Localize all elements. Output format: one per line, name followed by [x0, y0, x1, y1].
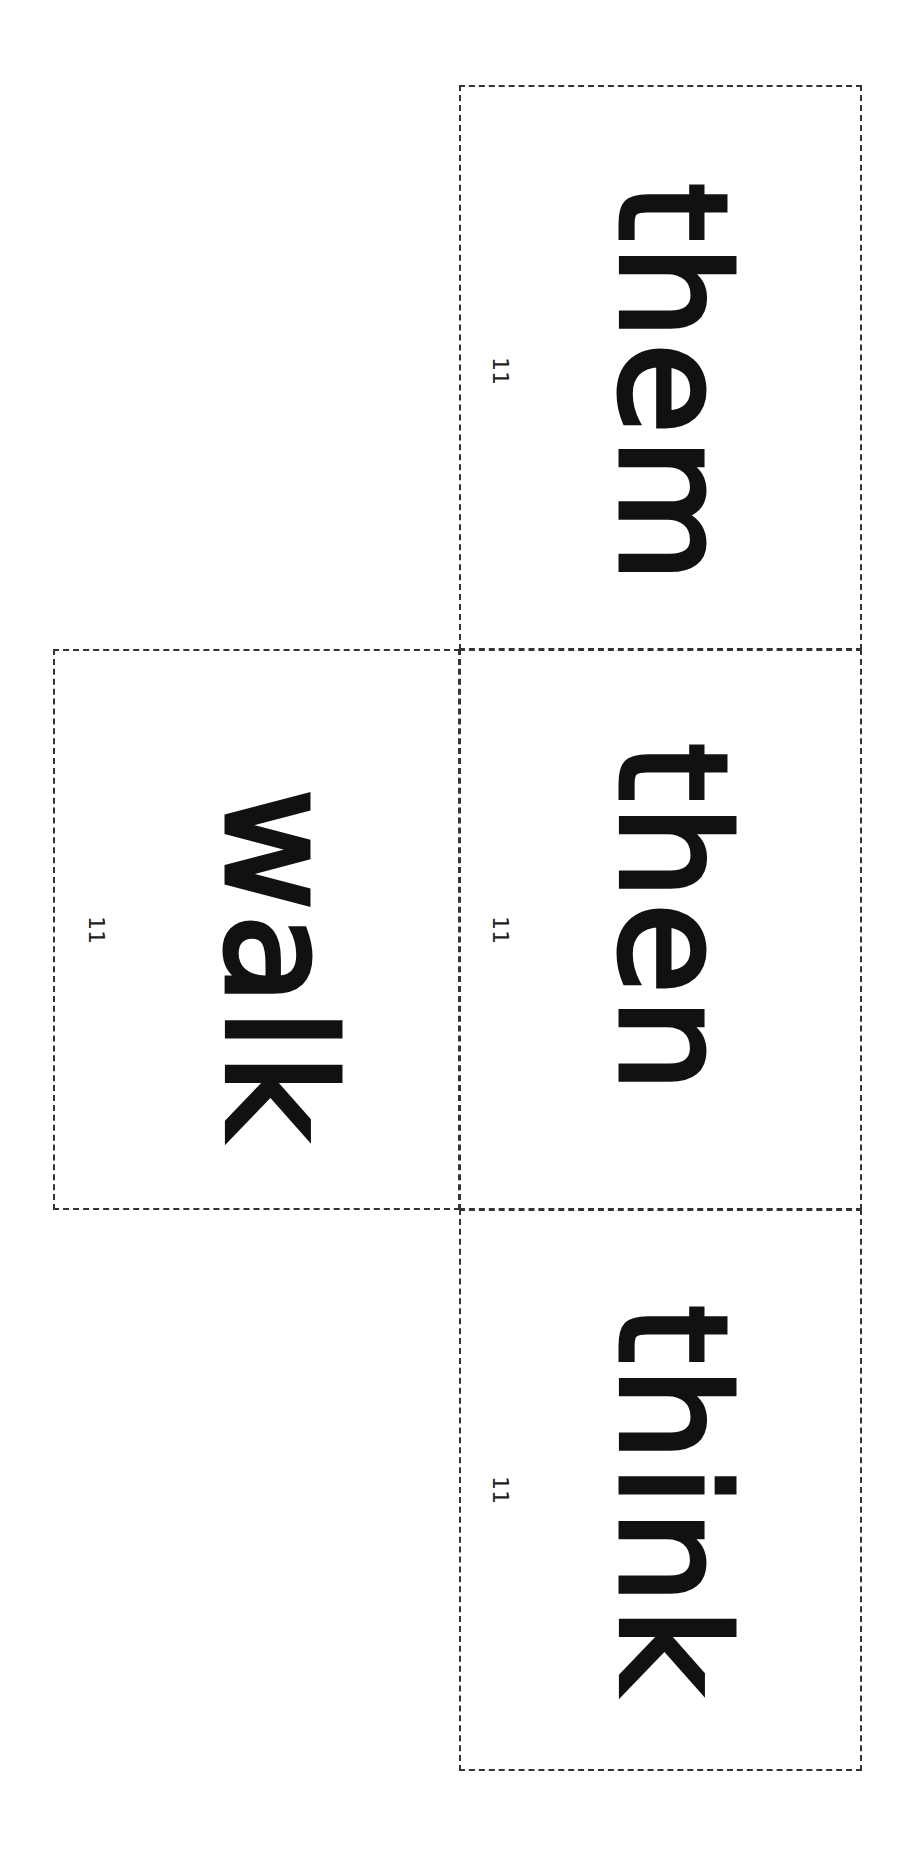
- card-word: them: [598, 183, 746, 586]
- card-word: walk: [204, 789, 352, 1144]
- flash-card-think: think 11: [459, 1209, 862, 1771]
- card-number: 11: [489, 916, 511, 944]
- card-word: think: [598, 1305, 746, 1697]
- flash-card-then: then 11: [459, 649, 862, 1210]
- flash-card-walk: walk 11: [53, 649, 460, 1210]
- card-number: 11: [489, 1476, 511, 1504]
- flash-card-them: them 11: [459, 85, 862, 650]
- card-word: then: [598, 743, 746, 1096]
- card-number: 11: [489, 357, 511, 385]
- card-number: 11: [85, 916, 107, 944]
